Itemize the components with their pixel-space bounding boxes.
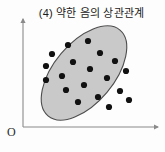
data-point bbox=[97, 50, 103, 56]
data-cloud bbox=[25, 11, 143, 135]
data-point bbox=[104, 75, 110, 81]
data-point bbox=[43, 77, 49, 83]
data-point bbox=[87, 66, 93, 72]
data-point bbox=[49, 51, 55, 57]
data-point bbox=[123, 68, 129, 74]
data-point bbox=[112, 58, 118, 64]
data-point bbox=[106, 104, 112, 110]
plot-area bbox=[0, 0, 165, 152]
data-point bbox=[95, 94, 101, 100]
data-point bbox=[63, 87, 69, 93]
data-point bbox=[85, 38, 91, 44]
data-point bbox=[59, 73, 65, 79]
data-point bbox=[75, 99, 81, 105]
origin-label: O bbox=[7, 126, 16, 139]
data-point bbox=[65, 42, 71, 48]
data-point bbox=[43, 63, 49, 69]
correlation-scatter-figure: (4) 약한 음의 상관관계 O bbox=[0, 0, 165, 152]
data-point bbox=[81, 82, 87, 88]
data-point bbox=[126, 97, 132, 103]
data-point bbox=[70, 59, 76, 65]
data-point bbox=[117, 88, 123, 94]
